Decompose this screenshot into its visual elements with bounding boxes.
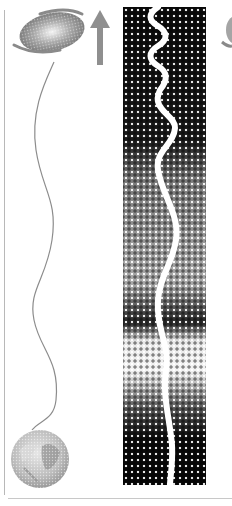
earth-globe-icon [11,430,69,488]
up-arrow-icon [90,10,110,65]
right-wave-line [151,7,177,485]
partial-galaxy-icon [222,16,232,46]
illustration-canvas [0,0,232,506]
left-wave-line [32,62,57,430]
galaxy-icon [14,7,88,58]
